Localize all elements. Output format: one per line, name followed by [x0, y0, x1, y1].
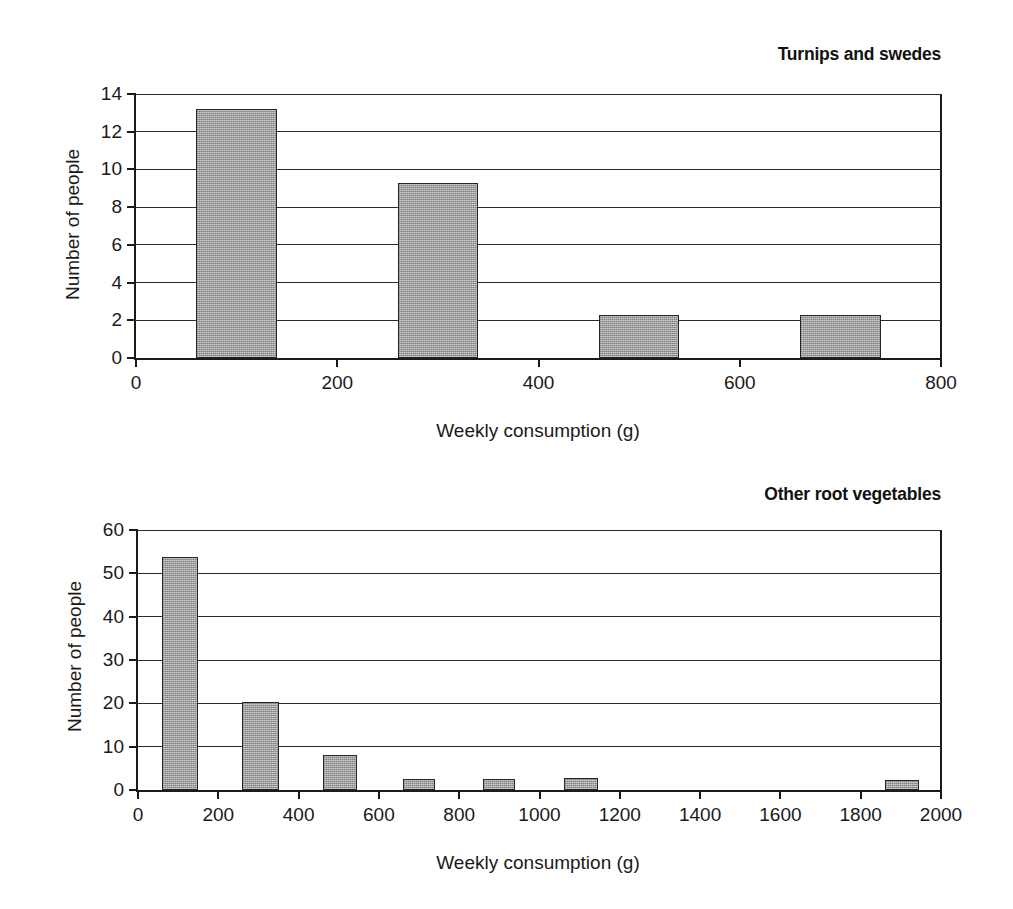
- y-axis-tick-label: 0: [113, 779, 124, 801]
- x-axis-tick-label: 0: [131, 372, 142, 394]
- y-axis-tick: [127, 206, 136, 208]
- x-axis-tick-label: 2000: [920, 804, 962, 826]
- x-axis-tick: [135, 358, 137, 367]
- y-axis-tick: [127, 168, 136, 170]
- y-axis-tick-label: 0: [111, 347, 122, 369]
- x-axis-tick: [539, 790, 541, 799]
- x-axis-tick-label: 1600: [759, 804, 801, 826]
- x-axis-tick-label: 1400: [679, 804, 721, 826]
- x-axis-tick-label: 400: [283, 804, 315, 826]
- x-axis-tick: [619, 790, 621, 799]
- y-axis-tick-label: 12: [101, 121, 122, 143]
- y-axis-tick-label: 6: [111, 234, 122, 256]
- bar: [885, 780, 919, 790]
- y-axis-tick-label: 40: [103, 606, 124, 628]
- gridline-y: [138, 530, 941, 531]
- y-axis-title-turnips: Number of people: [62, 149, 84, 300]
- y-axis-tick: [127, 282, 136, 284]
- y-axis-tick-label: 14: [101, 83, 122, 105]
- bar: [242, 702, 278, 790]
- gridline-y: [136, 94, 941, 95]
- y-axis-tick: [129, 659, 138, 661]
- bar: [162, 557, 198, 790]
- x-axis-title-other-root-vegetables: Weekly consumption (g): [436, 852, 639, 874]
- x-axis-tick: [739, 358, 741, 367]
- bar: [403, 779, 435, 790]
- bar: [323, 755, 357, 790]
- y-axis-tick-label: 30: [103, 649, 124, 671]
- x-axis-tick-label: 600: [724, 372, 756, 394]
- plot-area-turnips: 024681012140200400600800: [134, 94, 941, 360]
- y-axis-tick: [129, 616, 138, 618]
- x-axis-tick-label: 1200: [599, 804, 641, 826]
- x-axis-tick-label: 200: [321, 372, 353, 394]
- gridline-y: [138, 660, 941, 661]
- chart-turnips-and-swedes: Turnips and swedes 024681012140200400600…: [0, 0, 1013, 460]
- y-axis-tick-label: 10: [103, 736, 124, 758]
- bar: [800, 315, 881, 358]
- x-axis-tick: [699, 790, 701, 799]
- x-axis-tick: [336, 358, 338, 367]
- y-axis-tick: [127, 244, 136, 246]
- x-axis-tick-label: 1000: [518, 804, 560, 826]
- y-axis-tick-label: 2: [111, 309, 122, 331]
- y-axis-tick: [129, 746, 138, 748]
- y-axis-tick: [127, 319, 136, 321]
- x-axis-tick-label: 800: [443, 804, 475, 826]
- x-axis-tick-label: 0: [133, 804, 144, 826]
- y-axis-tick-label: 10: [101, 158, 122, 180]
- x-axis-tick-label: 800: [925, 372, 957, 394]
- plot-right-edge-turnips: [940, 94, 942, 358]
- x-axis-tick: [538, 358, 540, 367]
- bar: [564, 778, 598, 790]
- x-axis-tick: [860, 790, 862, 799]
- x-axis-tick: [298, 790, 300, 799]
- y-axis-tick-label: 8: [111, 196, 122, 218]
- y-axis-tick: [129, 529, 138, 531]
- y-axis-tick: [127, 93, 136, 95]
- x-axis-tick: [779, 790, 781, 799]
- y-axis-tick: [127, 131, 136, 133]
- x-axis-tick-label: 1800: [840, 804, 882, 826]
- x-axis-tick: [378, 790, 380, 799]
- y-axis-tick-label: 4: [111, 272, 122, 294]
- bar: [196, 109, 277, 358]
- gridline-y: [138, 616, 941, 617]
- y-axis-title-other-root-vegetables: Number of people: [64, 581, 86, 732]
- x-axis-tick-label: 400: [523, 372, 555, 394]
- x-axis-tick-label: 600: [363, 804, 395, 826]
- x-axis-tick: [940, 790, 942, 799]
- chart-other-root-vegetables: Other root vegetables 010203040506002004…: [0, 440, 1013, 909]
- y-axis-tick: [129, 702, 138, 704]
- x-axis-tick: [137, 790, 139, 799]
- gridline-y: [138, 573, 941, 574]
- bar: [483, 779, 515, 790]
- y-axis-tick-label: 60: [103, 519, 124, 541]
- x-axis-title-turnips: Weekly consumption (g): [436, 420, 639, 442]
- bar: [398, 183, 479, 358]
- x-axis-tick-label: 200: [202, 804, 234, 826]
- x-axis-tick: [217, 790, 219, 799]
- y-axis-tick-label: 20: [103, 692, 124, 714]
- chart-title-other-root-vegetables: Other root vegetables: [764, 484, 941, 505]
- y-axis-tick-label: 50: [103, 562, 124, 584]
- chart-title-turnips: Turnips and swedes: [778, 44, 941, 65]
- bar: [599, 315, 680, 358]
- x-axis-tick: [940, 358, 942, 367]
- y-axis-tick: [129, 572, 138, 574]
- plot-area-other-root-vegetables: 0102030405060020040060080010001200140016…: [136, 530, 941, 792]
- x-axis-tick: [458, 790, 460, 799]
